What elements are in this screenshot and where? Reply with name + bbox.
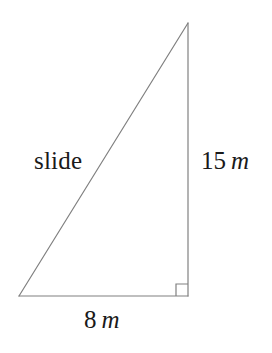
horizontal-leg-value: 8 — [84, 306, 97, 333]
vertical-leg-unit: m — [226, 147, 249, 174]
vertical-leg-label: 15m — [201, 148, 249, 173]
right-angle-square-icon — [176, 284, 188, 296]
hypotenuse-label: slide — [34, 148, 82, 173]
horizontal-leg-unit: m — [97, 306, 120, 333]
triangle-figure — [0, 0, 272, 353]
horizontal-leg-label: 8m — [84, 307, 120, 332]
vertical-leg-value: 15 — [201, 147, 226, 174]
diagram-canvas: slide 15m 8m — [0, 0, 272, 353]
